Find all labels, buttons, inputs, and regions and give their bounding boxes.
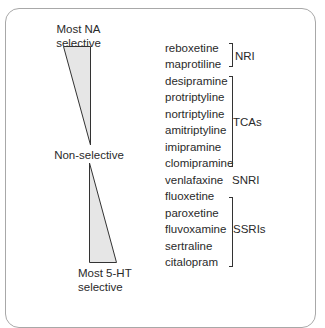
class-label-ssris: SSRIs xyxy=(233,222,266,236)
drug-reboxetine: reboxetine xyxy=(165,41,219,55)
class-label-nri: NRI xyxy=(235,49,255,63)
drug-citalopram: citalopram xyxy=(165,255,218,269)
drug-sertraline: sertraline xyxy=(165,239,212,253)
drug-fluvoxamine: fluvoxamine xyxy=(165,222,226,236)
na-selectivity-wedge xyxy=(64,47,91,146)
5ht-selectivity-wedge xyxy=(90,163,117,263)
drug-amitriptyline: amitriptyline xyxy=(165,123,226,137)
drug-protriptyline: protriptyline xyxy=(165,90,224,104)
drug-maprotiline: maprotiline xyxy=(165,57,221,71)
drug-clomipramine: clomipramine xyxy=(165,156,233,170)
drug-desipramine: desipramine xyxy=(165,74,228,88)
drug-fluoxetine: fluoxetine xyxy=(165,189,214,203)
drug-nortriptyline: nortriptyline xyxy=(165,107,224,121)
bracket-nri xyxy=(229,43,233,67)
class-label-tcas: TCAs xyxy=(233,115,262,129)
drug-paroxetine: paroxetine xyxy=(165,206,219,220)
drug-imipramine: imipramine xyxy=(165,140,221,154)
drug-venlafaxine: venlafaxine xyxy=(165,173,223,187)
class-label-snri: SNRI xyxy=(232,173,259,187)
